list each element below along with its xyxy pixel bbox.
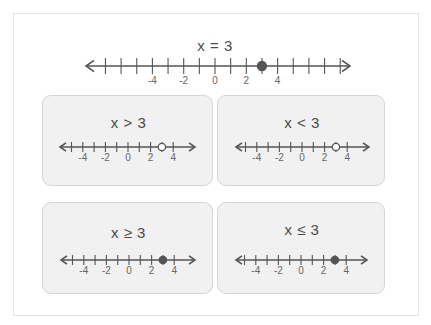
tick-label: 4 [343,265,349,276]
tick-label: 0 [298,265,304,276]
panel-line-0: -4-2024 [60,142,195,163]
tick-label: -4 [251,265,260,276]
open-point-icon [332,143,339,150]
tick-label: 2 [322,152,328,163]
tick-label: -4 [252,152,261,163]
tick-label: -2 [275,152,284,163]
tick-label: 0 [126,265,132,276]
tick-label: 2 [321,265,327,276]
open-point-icon [158,143,165,150]
tick-label: -2 [274,265,283,276]
tick-label: 0 [299,152,305,163]
tick-label: 2 [148,152,154,163]
tick-label: 4 [170,152,176,163]
panel-line-2: -4-2024 [61,255,195,276]
tick-label: 4 [344,152,350,163]
tick-label: -4 [79,265,88,276]
tick-label: 4 [171,265,177,276]
closed-point-icon [159,256,166,263]
panel-line-1: -4-2024 [236,142,369,163]
tick-label: -4 [78,152,87,163]
tick-label: -2 [101,152,110,163]
tick-label: 2 [149,265,155,276]
tick-label: 0 [125,152,131,163]
panel-number-lines: -4-2024-4-2024-4-2024-4-2024 [0,0,431,325]
tick-label: -2 [102,265,111,276]
closed-point-icon [331,256,338,263]
panel-line-3: -4-2024 [236,255,367,276]
